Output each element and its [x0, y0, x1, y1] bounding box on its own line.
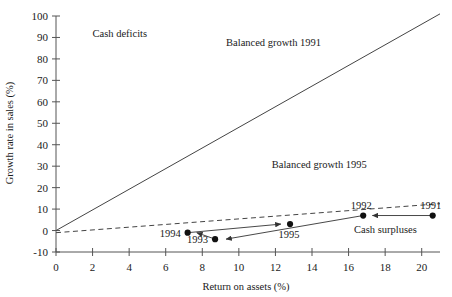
y-tick-label: 40	[37, 139, 49, 151]
annotation-cash-surpluses: Cash surpluses	[354, 224, 417, 235]
data-point-1995[interactable]	[287, 221, 293, 227]
scatter-chart: -100102030405060708090100024681012141618…	[0, 0, 452, 297]
data-point-1992[interactable]	[360, 212, 366, 218]
series-group: Balanced growth 1991Balanced growth 1995…	[56, 14, 441, 245]
chart-container: -100102030405060708090100024681012141618…	[0, 0, 452, 297]
data-point-1994[interactable]	[185, 230, 191, 236]
series-label: Balanced growth 1991	[226, 37, 321, 48]
y-tick-label: -10	[33, 246, 48, 258]
data-point-label-1991: 1991	[420, 200, 441, 211]
data-point-label-1993: 1993	[187, 234, 208, 245]
x-tick-label: 8	[200, 261, 206, 273]
y-tick-label: 0	[43, 225, 49, 237]
data-point-label-1995: 1995	[279, 229, 300, 240]
x-tick-label: 14	[307, 261, 319, 273]
y-tick-label: 20	[37, 182, 49, 194]
data-point-1993[interactable]	[212, 236, 218, 242]
x-tick-label: 4	[126, 261, 132, 273]
x-tick-label: 0	[53, 261, 59, 273]
x-tick-label: 2	[90, 261, 96, 273]
x-tick-label: 16	[343, 261, 355, 273]
y-tick-label: 30	[37, 160, 49, 172]
y-tick-label: 10	[37, 203, 49, 215]
data-point-1991[interactable]	[430, 212, 436, 218]
annotation-cash-deficits: Cash deficits	[93, 28, 148, 39]
data-point-label-1994: 1994	[160, 228, 182, 239]
trajectory-arrow	[188, 224, 281, 233]
x-tick-label: 12	[270, 261, 281, 273]
series-label: Balanced growth 1995	[272, 159, 367, 170]
x-tick-label: 10	[233, 261, 245, 273]
data-point-label-1992: 1992	[351, 200, 372, 211]
y-tick-label: 60	[37, 96, 49, 108]
y-tick-label: 80	[37, 53, 49, 65]
y-axis-title: Growth rate in sales (%)	[4, 81, 16, 184]
y-tick-label: 100	[32, 10, 49, 22]
y-tick-label: 50	[37, 117, 49, 129]
x-tick-label: 6	[163, 261, 169, 273]
y-tick-label: 70	[37, 74, 49, 86]
x-tick-label: 18	[380, 261, 392, 273]
x-axis-title: Return on assets (%)	[202, 281, 290, 293]
y-tick-label: 90	[37, 31, 49, 43]
x-tick-label: 20	[416, 261, 428, 273]
